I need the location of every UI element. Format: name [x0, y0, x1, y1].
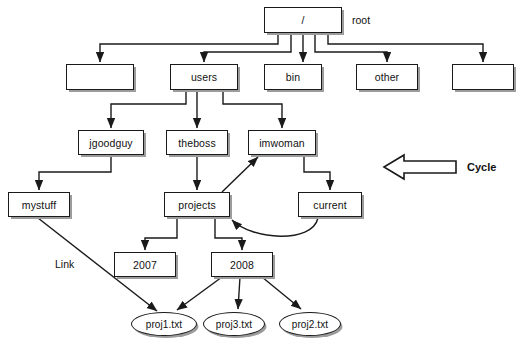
node-jgoodguy-label: jgoodguy — [89, 137, 132, 149]
diagram-canvas: / users bin other jgoodguy theboss imwom… — [0, 0, 524, 344]
node-projects[interactable]: projects — [164, 192, 230, 217]
node-proj3-txt[interactable]: proj3.txt — [203, 312, 265, 336]
node-root-label: / — [301, 14, 304, 26]
node-mystuff-label: mystuff — [22, 199, 56, 211]
node-proj3-txt-label: proj3.txt — [216, 319, 252, 330]
node-imwoman[interactable]: imwoman — [248, 130, 316, 155]
edge-projects-imwoman — [222, 157, 258, 192]
edge-users-imwoman — [223, 90, 282, 128]
edge-users-jgoodguy — [111, 90, 186, 128]
node-users-label: users — [191, 71, 217, 83]
node-2008-label: 2008 — [230, 259, 254, 271]
node-2007-label: 2007 — [133, 259, 157, 271]
cycle-annotation-label: Cycle — [467, 161, 496, 173]
node-bin[interactable]: bin — [264, 64, 322, 90]
cycle-left-arrow-icon — [382, 152, 458, 182]
node-theboss-label: theboss — [178, 137, 215, 149]
node-current-label: current — [313, 199, 346, 211]
node-current[interactable]: current — [298, 192, 362, 217]
node-other[interactable]: other — [356, 64, 418, 90]
node-bin-label: bin — [286, 71, 300, 83]
node-jgoodguy[interactable]: jgoodguy — [78, 130, 144, 155]
edge-imwoman-current — [304, 155, 330, 190]
root-annotation-label: root — [352, 14, 370, 26]
edge-2008-proj2 — [262, 277, 301, 309]
edge-projects-2007 — [145, 217, 177, 250]
edge-2008-proj3 — [238, 277, 240, 309]
edge-root-empty2 — [328, 33, 483, 62]
node-proj2-txt-label: proj2.txt — [292, 319, 328, 330]
node-proj1-txt[interactable]: proj1.txt — [131, 312, 197, 336]
edge-projects-2008 — [215, 217, 242, 250]
edge-root-other — [315, 33, 387, 62]
node-root[interactable]: / — [264, 7, 342, 33]
node-mystuff[interactable]: mystuff — [8, 192, 70, 217]
node-empty-2[interactable] — [452, 64, 514, 90]
link-annotation-label: Link — [55, 258, 74, 270]
node-projects-label: projects — [178, 199, 216, 211]
node-imwoman-label: imwoman — [259, 137, 305, 149]
edge-root-empty1 — [100, 33, 278, 62]
node-empty-1[interactable] — [66, 64, 134, 90]
node-proj2-txt[interactable]: proj2.txt — [279, 312, 341, 336]
edge-current-projects — [232, 218, 318, 236]
node-theboss[interactable]: theboss — [166, 130, 228, 155]
edge-2008-proj1 — [177, 277, 222, 310]
node-other-label: other — [375, 71, 399, 83]
node-proj1-txt-label: proj1.txt — [146, 319, 182, 330]
node-2007[interactable]: 2007 — [114, 252, 176, 277]
node-users[interactable]: users — [170, 64, 238, 90]
edge-jgoodguy-mystuff — [39, 155, 111, 190]
node-2008[interactable]: 2008 — [211, 252, 273, 277]
